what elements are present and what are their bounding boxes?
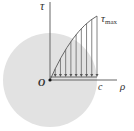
tau-axis-label: τ (40, 0, 45, 13)
origin-label: O (38, 77, 45, 88)
origin-point (48, 78, 51, 81)
tau-max-label: τmax (101, 12, 117, 26)
rho-axis-label: ρ (119, 80, 125, 92)
c-label: c (98, 81, 103, 92)
shear-stress-diagram: τ τmax O c ρ (0, 0, 134, 131)
